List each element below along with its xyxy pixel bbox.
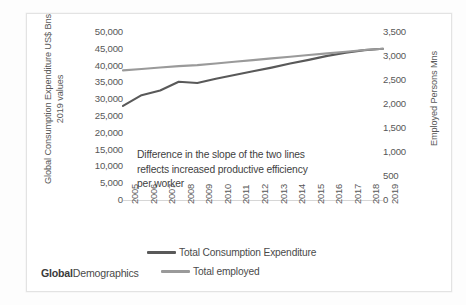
series-line-employed <box>123 49 383 71</box>
legend-label-employed: Total employed <box>193 266 259 278</box>
y-tick-left-0: 0 <box>71 195 123 205</box>
annotation-line-2: reflects increased productive efficiency <box>137 163 377 178</box>
y-tick-right-2000: 2,000 <box>383 99 423 109</box>
brand-light: Demographics <box>73 267 139 279</box>
y-tick-left-20000: 20,000 <box>71 128 123 138</box>
y-tick-left-25000: 25,000 <box>71 111 123 121</box>
y-tick-left-5000: 5,000 <box>71 178 123 188</box>
annotation-line-1: Difference in the slope of the two lines <box>137 148 377 163</box>
y-tick-right-500: 500 <box>383 171 423 181</box>
series-line-consumption <box>123 49 383 106</box>
y-axis-left-title: Global Consumption Expenditure US$ Bns 2… <box>43 4 69 194</box>
y-tick-left-30000: 30,000 <box>71 94 123 104</box>
chart-annotation: Difference in the slope of the two lines… <box>137 148 377 192</box>
brand-logo: GlobalDemographics <box>41 267 139 280</box>
y-axis-right-title: Employed Persons Mns <box>429 34 442 164</box>
y-tick-left-40000: 40,000 <box>71 61 123 71</box>
legend-label-consumption: Total Consumption Expenditure <box>179 247 316 259</box>
y-tick-right-1000: 1,000 <box>383 147 423 157</box>
y-tick-left-10000: 10,000 <box>71 161 123 171</box>
legend-swatch-consumption <box>147 251 176 253</box>
chart-frame: Global Consumption Expenditure US$ Bns 2… <box>26 13 452 292</box>
y-tick-right-3500: 3,500 <box>383 27 423 37</box>
y-tick-right-2500: 2,500 <box>383 75 423 85</box>
legend-item-consumption: Total Consumption Expenditure <box>147 243 437 262</box>
y-tick-left-50000: 50,000 <box>71 27 123 37</box>
y-tick-right-3000: 3,000 <box>383 51 423 61</box>
chart-screenshot: Global Consumption Expenditure US$ Bns 2… <box>0 0 466 305</box>
legend-swatch-employed <box>161 270 190 272</box>
annotation-line-3: per worker <box>137 177 377 192</box>
chart-legend: Total Consumption Expenditure Total empl… <box>147 243 437 281</box>
legend-item-employed: Total employed <box>147 262 437 281</box>
x-tick-2019: 2019 <box>388 191 422 204</box>
brand-bold: Global <box>41 267 73 279</box>
y-tick-right-1500: 1,500 <box>383 123 423 133</box>
y-tick-left-15000: 15,000 <box>71 145 123 155</box>
y-tick-left-35000: 35,000 <box>71 77 123 87</box>
y-tick-left-45000: 45,000 <box>71 44 123 54</box>
